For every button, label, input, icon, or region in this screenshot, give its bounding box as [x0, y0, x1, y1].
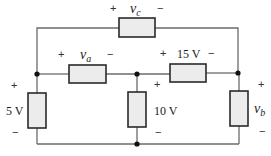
- element-vb: [230, 91, 248, 126]
- e5-label: 5 V: [6, 104, 24, 118]
- circuit-diagram: + vc − + va − + 15 V − + 5 V − + 10 V − …: [0, 0, 271, 156]
- e15-plus: +: [160, 47, 166, 59]
- vc-minus: −: [157, 2, 163, 14]
- element-10v: [128, 92, 146, 127]
- element-15v: [170, 64, 206, 82]
- va-var: va: [80, 47, 91, 64]
- element-va: [69, 65, 106, 83]
- va-plus: +: [58, 48, 64, 60]
- vb-minus: −: [259, 125, 265, 137]
- node-center: [134, 71, 139, 76]
- va-minus: −: [107, 48, 113, 60]
- element-vc: [119, 18, 155, 37]
- e10-minus: −: [155, 126, 161, 138]
- e10-label: 10 V: [154, 104, 178, 118]
- vb-plus: +: [258, 78, 264, 90]
- node-bottom: [134, 141, 139, 146]
- e5-plus: +: [11, 79, 17, 91]
- vc-plus: +: [110, 2, 116, 14]
- e10-plus: +: [154, 78, 160, 90]
- element-5v: [28, 93, 46, 128]
- node-right: [235, 70, 240, 75]
- vc-var: vc: [130, 1, 141, 18]
- node-left: [34, 71, 39, 76]
- e5-minus: −: [12, 126, 18, 138]
- vb-var: vb: [254, 101, 265, 118]
- e15-label: 15 V: [177, 47, 201, 61]
- e15-minus: −: [208, 47, 214, 59]
